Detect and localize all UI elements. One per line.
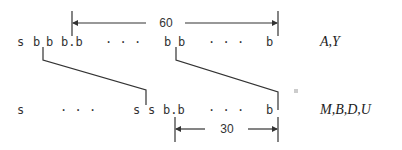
diagram-canvas: 60 s b b b.b · · · b b · · · b A,Y s · ·… (0, 0, 402, 150)
token-b: b (266, 103, 273, 117)
token-b-dot-b: b.b (163, 103, 185, 117)
connector-left (43, 47, 146, 105)
token-b: b (178, 35, 185, 49)
token-b-dot-b: b.b (61, 35, 83, 49)
ellipsis: · · · (105, 35, 141, 49)
token-b: b (164, 35, 171, 49)
token-s: s (17, 35, 24, 49)
top-row: s b b b.b · · · b b · · · b A,Y (17, 34, 342, 49)
dimension-label-30: 30 (220, 122, 234, 136)
token-b: b (46, 35, 53, 49)
token-s: s (17, 103, 24, 117)
dimension-30: 30 (175, 117, 278, 142)
speck (294, 89, 298, 93)
token-s: s (148, 103, 155, 117)
dimension-label-60: 60 (159, 16, 173, 30)
token-b: b (266, 35, 273, 49)
ellipsis: · · · (60, 103, 96, 117)
bottom-row: s · · · s s b.b · · · b M,B,D,U (17, 102, 372, 117)
row-label-top: A,Y (319, 34, 342, 49)
token-b: b (33, 35, 40, 49)
diagram-svg: 60 s b b b.b · · · b b · · · b A,Y s · ·… (0, 0, 402, 150)
ellipsis: · · · (208, 103, 244, 117)
connector-right (176, 47, 278, 110)
ellipsis: · · · (208, 35, 244, 49)
dimension-60: 60 (72, 11, 278, 36)
token-s: s (133, 103, 140, 117)
row-label-bottom: M,B,D,U (319, 102, 372, 117)
